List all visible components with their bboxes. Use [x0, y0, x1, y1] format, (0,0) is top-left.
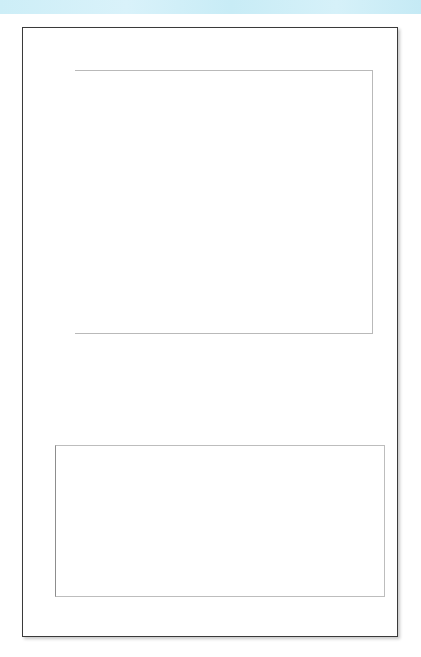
- belastung-hours-chart: [23, 432, 399, 632]
- page-card: [22, 27, 398, 637]
- top-banner: [0, 0, 421, 14]
- legend: [23, 368, 399, 420]
- top-chart-bars: [75, 71, 372, 333]
- bottom-chart-plot-area: [55, 445, 385, 597]
- top-chart-plot-area: [75, 70, 373, 334]
- top-chart-x-axis: [75, 334, 373, 356]
